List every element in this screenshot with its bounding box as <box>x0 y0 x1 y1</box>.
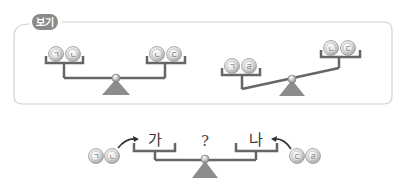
svg-text:ㄴ: ㄴ <box>70 51 76 59</box>
ball-ㄴ: ㄴ <box>105 149 120 164</box>
ball-ㄴ: ㄴ <box>66 47 81 62</box>
svg-text:ㄹ: ㄹ <box>310 153 316 161</box>
svg-text:ㄴ: ㄴ <box>109 153 115 161</box>
example-tag-label: 보기 <box>36 16 54 28</box>
svg-text:ㄴ: ㄴ <box>154 51 160 59</box>
ball-ㄱ: ㄱ <box>49 47 64 62</box>
question-scale: 가 나 ? ㄱ ㄴ ㄷ ㄹ <box>89 131 321 178</box>
ball-ㄹ: ㄹ <box>242 59 257 74</box>
ball-ㄴ: ㄴ <box>324 41 339 56</box>
ball-ㄹ: ㄹ <box>306 149 321 164</box>
svg-text:ㄴ: ㄴ <box>328 45 334 53</box>
ball-ㄷ: ㄷ <box>341 41 356 56</box>
balance-scale-diagram: 보기 ㄱ ㄴ ㄴ ㄷ <box>0 0 404 191</box>
fulcrum-icon <box>192 161 218 178</box>
right-pan-label: 나 <box>249 131 263 149</box>
svg-text:ㄱ: ㄱ <box>93 153 99 161</box>
svg-text:ㄷ: ㄷ <box>171 51 177 59</box>
ball-ㄷ: ㄷ <box>290 149 305 164</box>
svg-text:ㄹ: ㄹ <box>246 63 252 71</box>
ball-ㄴ: ㄴ <box>150 47 165 62</box>
ball-ㄱ: ㄱ <box>225 59 240 74</box>
example-scale-tilted: ㄱ ㄹ ㄴ ㄷ <box>222 41 360 97</box>
example-tag: 보기 <box>32 14 58 30</box>
left-pan-label: 가 <box>148 131 162 149</box>
ball-ㄷ: ㄷ <box>167 47 182 62</box>
svg-text:ㄷ: ㄷ <box>345 45 351 53</box>
svg-text:ㄱ: ㄱ <box>53 51 59 59</box>
ball-ㄱ: ㄱ <box>89 149 104 164</box>
svg-text:ㄱ: ㄱ <box>229 63 235 71</box>
svg-text:ㄷ: ㄷ <box>294 153 300 161</box>
question-mark: ? <box>201 132 209 150</box>
example-scale-balanced: ㄱ ㄴ ㄴ ㄷ <box>46 47 185 96</box>
